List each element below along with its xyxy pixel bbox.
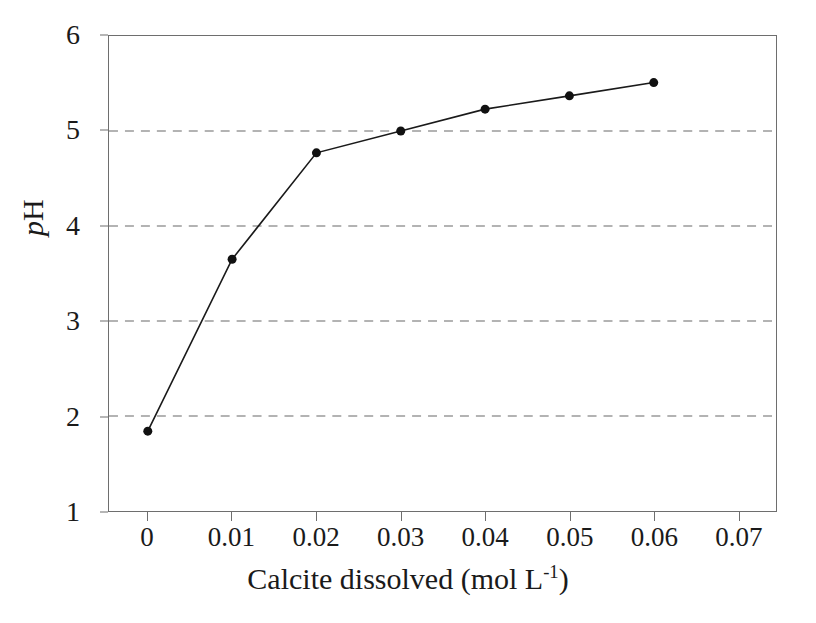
data-point — [312, 148, 321, 157]
x-axis-tick-labels: 00.010.020.030.040.050.060.07 — [108, 524, 777, 560]
y-tick-mark-5 — [100, 130, 108, 131]
x-tick-mark-0.07 — [739, 512, 740, 521]
x-tick-label-0.03: 0.03 — [377, 524, 424, 551]
y-axis-tick-labels: 123456 — [0, 35, 96, 512]
y-tick-label-5: 5 — [66, 116, 80, 144]
y-axis-tick-marks — [100, 35, 108, 512]
x-tick-label-0.01: 0.01 — [208, 524, 255, 551]
x-tick-label-0.07: 0.07 — [715, 524, 762, 551]
x-axis-title-exponent: -1 — [543, 561, 559, 582]
y-tick-label-1: 1 — [66, 498, 80, 526]
x-tick-mark-0.02 — [316, 512, 317, 521]
x-axis-title-base: Calcite dissolved (mol L — [247, 562, 543, 595]
x-tick-label-0.06: 0.06 — [631, 524, 678, 551]
x-tick-label-0.02: 0.02 — [292, 524, 339, 551]
x-tick-mark-0.06 — [654, 512, 655, 521]
y-tick-label-6: 6 — [66, 21, 80, 49]
y-tick-mark-3 — [100, 321, 108, 322]
data-point — [481, 105, 490, 114]
plot-area — [108, 35, 777, 512]
data-point — [143, 427, 152, 436]
x-tick-mark-0.03 — [401, 512, 402, 521]
x-axis-title-tail: ) — [559, 562, 569, 595]
x-tick-label-0.04: 0.04 — [462, 524, 509, 551]
y-tick-label-3: 3 — [66, 307, 80, 335]
y-tick-label-4: 4 — [66, 212, 80, 240]
data-point — [565, 91, 574, 100]
x-tick-mark-0.04 — [485, 512, 486, 521]
y-tick-mark-2 — [100, 416, 108, 417]
y-tick-mark-6 — [100, 35, 108, 36]
y-tick-mark-4 — [100, 225, 108, 226]
y-tick-label-2: 2 — [66, 403, 80, 431]
data-point — [649, 78, 658, 87]
x-tick-mark-0 — [147, 512, 148, 521]
chart-figure: pH 123456 00.010.020.030.040.050.060.07 … — [0, 0, 816, 623]
data-series-ph — [109, 36, 776, 511]
x-tick-label-0.05: 0.05 — [546, 524, 593, 551]
x-axis-tick-marks — [108, 512, 777, 521]
y-tick-mark-1 — [100, 512, 108, 513]
x-axis-title: Calcite dissolved (mol L-1) — [0, 562, 816, 596]
data-point — [228, 255, 237, 264]
x-tick-mark-0.05 — [570, 512, 571, 521]
x-tick-label-0: 0 — [140, 524, 154, 551]
x-tick-mark-0.01 — [231, 512, 232, 521]
data-point — [396, 127, 405, 136]
